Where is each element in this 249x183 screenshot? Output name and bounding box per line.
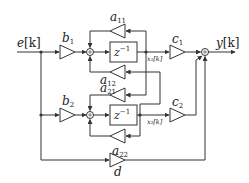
a22-gain-block	[110, 129, 125, 143]
d-label: d	[114, 166, 122, 178]
state-x2-label: x₂[k]	[147, 119, 162, 126]
c2-label: c2	[172, 96, 183, 110]
a11-label: a11	[110, 11, 126, 25]
a21-label: a21	[100, 82, 116, 96]
a11-gain-block	[110, 24, 125, 38]
b1-gain-block	[60, 45, 75, 59]
b2-label: b2	[62, 95, 74, 109]
c2-gain-block	[170, 108, 185, 122]
b2-gain-block	[60, 108, 75, 122]
delay1-label: z−1	[114, 45, 130, 59]
delay2-label: z−1	[114, 108, 130, 122]
a22-label: a22	[112, 145, 128, 159]
c1-label: c1	[172, 33, 183, 47]
b1-label: b1	[62, 32, 74, 46]
state-x1-label: x₁[k]	[147, 56, 162, 63]
input-label: e[k]	[17, 37, 41, 49]
c1-gain-block	[170, 45, 185, 59]
block-diagram: e[k] y[k] b1 b2 a11 a12 a21 a22 c1 c2 d …	[0, 0, 249, 183]
feedthrough-wire	[41, 52, 109, 160]
output-label: y[k]	[216, 37, 239, 49]
